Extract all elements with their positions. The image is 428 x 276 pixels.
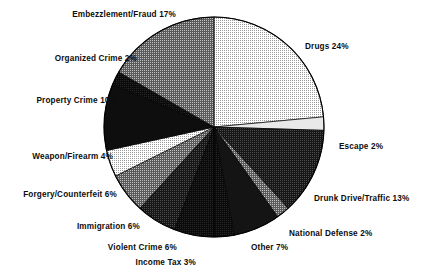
- pie-label-weapon-firearm: Weapon/Firearm 4%: [32, 152, 113, 162]
- pie-label-organized-crime: Organized Crime 2%: [55, 54, 137, 64]
- pie-label-immigration: Immigration 6%: [77, 222, 140, 232]
- pie-label-violent-crime: Violent Crime 6%: [108, 243, 177, 253]
- pie-chart-figure: Embezzlement/Fraud 17% Organized Crime 2…: [0, 0, 428, 276]
- pie-label-drugs: Drugs 24%: [305, 42, 349, 52]
- pie-label-drunk-drive-traffic: Drunk Drive/Traffic 13%: [314, 194, 409, 204]
- pie-label-escape: Escape 2%: [339, 142, 383, 152]
- pie-slice: [214, 17, 324, 127]
- pie-label-income-tax: Income Tax 3%: [136, 258, 197, 268]
- pie-label-other: Other 7%: [251, 243, 288, 253]
- pie-slices: [104, 17, 324, 237]
- pie-label-national-defense: National Defense 2%: [289, 229, 372, 239]
- pie-label-forgery-counterfeit: Forgery/Counterfeit 6%: [23, 190, 117, 200]
- pie-label-property-crime: Property Crime 10%: [36, 96, 117, 106]
- pie-label-embezzlement-fraud: Embezzlement/Fraud 17%: [72, 10, 176, 20]
